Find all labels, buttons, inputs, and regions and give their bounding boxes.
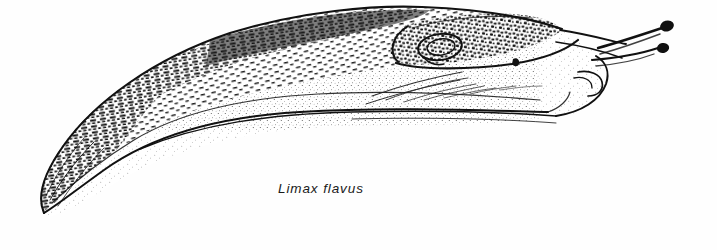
species-caption: Limax flavus xyxy=(278,181,478,197)
caption-block: Limax flavus xyxy=(278,181,478,197)
slug-illustration xyxy=(0,0,717,250)
pneumostome xyxy=(512,58,519,66)
figure-root: Limax flavus xyxy=(0,0,717,250)
